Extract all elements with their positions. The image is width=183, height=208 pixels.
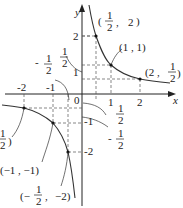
svg-text:1: 1 [118, 127, 124, 139]
svg-text:2: 2 [118, 139, 124, 151]
point-half-2 [94, 34, 97, 37]
svg-text:2: 2 [107, 21, 113, 33]
point-label-neg1-neg1: (−1 , −1) [0, 164, 39, 177]
fraction-x-pos-half: 1 2 [116, 102, 124, 126]
y-tick-1: 1 [73, 66, 79, 78]
svg-text:1: 1 [62, 45, 68, 57]
svg-text:): ) [177, 67, 181, 80]
fraction-x-neg-half: - 1 2 [35, 52, 52, 76]
svg-text:-: - [35, 56, 39, 68]
x-tick-1: 1 [108, 96, 114, 108]
point-2-half [138, 77, 141, 80]
y-tick-2: 2 [73, 30, 79, 42]
svg-text:(2 ,: (2 , [145, 66, 160, 79]
hint-curve-neg [55, 80, 69, 100]
hyperbola-figure: y x 0 -2 -1 1 2 2 1 -1 -2 - 1 2 1 2 1 2 … [0, 0, 183, 208]
svg-text:,: , [116, 16, 119, 28]
svg-text:): ) [136, 15, 140, 28]
fraction-y-pos-half: 1 2 [60, 45, 68, 69]
svg-text:): ) [8, 135, 12, 148]
svg-text:2: 2 [118, 114, 124, 126]
hint-curve-bottom [83, 103, 106, 115]
y-tick-neg1: -1 [84, 115, 93, 127]
svg-text:(: ( [98, 15, 102, 28]
origin-label: 0 [74, 94, 80, 106]
svg-text:1: 1 [0, 127, 6, 139]
y-axis-label: y [74, 6, 80, 18]
svg-text:−2): −2) [55, 190, 71, 203]
x-tick-neg2: -2 [17, 81, 26, 93]
x-tick-neg1: -1 [46, 81, 55, 93]
point-label-neghalf-neg2: (− 1 2 , −2) [20, 183, 71, 207]
svg-text:2: 2 [170, 72, 176, 84]
svg-text:1: 1 [107, 9, 113, 21]
svg-text:2: 2 [46, 64, 52, 76]
point-label-neg2-neghalf: 1 2 ) [0, 127, 12, 151]
svg-text:-: - [108, 132, 112, 144]
x-axis-label: x [172, 94, 178, 106]
y-tick-neg2: -2 [84, 145, 93, 157]
svg-text:2: 2 [128, 16, 134, 28]
fraction-y-neg-half: - 1 2 [108, 127, 124, 151]
point-label-1-1: (1 , 1) [119, 41, 146, 54]
x-tick-2: 2 [137, 96, 143, 108]
svg-text:1: 1 [118, 102, 124, 114]
svg-text:2: 2 [36, 195, 42, 207]
svg-text:1: 1 [46, 52, 52, 64]
point-label-half-2: ( 1 2 , 2 ) [98, 9, 140, 33]
y-axis-arrow-icon [79, 4, 85, 12]
svg-text:(−: (− [20, 190, 30, 203]
svg-text:2: 2 [0, 139, 6, 151]
svg-text:2: 2 [62, 57, 68, 69]
svg-text:1: 1 [36, 183, 42, 195]
svg-text:1: 1 [170, 60, 176, 72]
svg-text:,: , [45, 190, 48, 202]
